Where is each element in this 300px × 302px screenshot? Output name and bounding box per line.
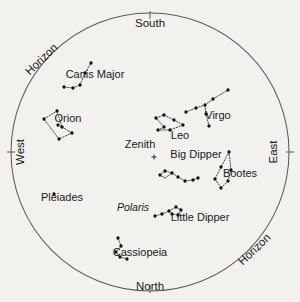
constellation-line-bootes <box>215 167 221 179</box>
star-point-cassiopeia <box>116 236 119 239</box>
constellation-line-leo <box>164 115 174 120</box>
compass-label-south: South <box>135 17 165 29</box>
constellation-label-virgo: Virgo <box>205 109 230 121</box>
star-point-canis-major <box>89 61 92 64</box>
star-point-big-dipper <box>176 175 179 178</box>
constellation-line-bootes <box>221 152 229 167</box>
star-point-leo <box>181 123 184 126</box>
constellation-line-orion <box>62 127 72 133</box>
star-point-little-dipper <box>174 205 177 208</box>
star-point-little-dipper <box>153 214 156 217</box>
star-point-virgo <box>203 103 206 106</box>
constellation-label-little-dipper: Little Dipper <box>171 211 230 223</box>
constellation-label-big-dipper: Big Dipper <box>170 148 222 160</box>
star-point-little-dipper <box>160 212 163 215</box>
star-point-big-dipper <box>158 173 161 176</box>
star-point-leo <box>172 118 175 121</box>
star-point-canis-major <box>78 83 81 86</box>
star-point-big-dipper <box>196 176 199 179</box>
constellation-label-pleiades: Pleiades <box>41 191 84 203</box>
star-point-virgo <box>211 97 214 100</box>
star-point-canis-major <box>62 85 65 88</box>
horizon-label-horizon-upper-left: Horizon <box>23 41 60 77</box>
star-point-virgo <box>226 88 229 91</box>
star-point-bootes <box>227 150 230 153</box>
star-point-bootes <box>219 186 222 189</box>
compass-label-west: West <box>14 138 26 165</box>
constellation-line-orion <box>59 133 72 139</box>
star-point-orion <box>57 137 60 140</box>
constellation-label-leo: Leo <box>171 129 189 141</box>
zenith-label: Zenith <box>125 138 156 150</box>
star-points-group <box>42 61 232 260</box>
star-point-virgo <box>194 106 197 109</box>
star-chart: SouthNorthWestEastHorizonHorizonZenithCa… <box>0 0 300 302</box>
star-point-orion <box>60 125 63 128</box>
star-point-leo <box>154 116 157 119</box>
labels-group: SouthNorthWestEastHorizonHorizonZenithCa… <box>14 17 279 292</box>
constellation-line-leo <box>156 118 164 127</box>
star-label-polaris: Polaris <box>117 201 150 213</box>
star-point-big-dipper <box>191 178 194 181</box>
star-point-big-dipper <box>163 169 166 172</box>
star-point-big-dipper <box>170 171 173 174</box>
star-point-bootes <box>226 179 229 182</box>
constellation-label-bootes: Bootes <box>223 167 258 179</box>
star-point-leo <box>162 125 165 128</box>
star-point-orion <box>70 131 73 134</box>
constellation-lines-group <box>44 63 231 259</box>
zenith-marker-group <box>152 155 157 160</box>
constellation-label-orion: Orion <box>55 112 82 124</box>
star-point-big-dipper <box>183 179 186 182</box>
constellation-label-cassiopeia: Cassiopeia <box>113 246 168 258</box>
star-point-virgo <box>184 110 187 113</box>
star-point-leo <box>156 128 159 131</box>
constellation-line-virgo <box>213 90 228 99</box>
star-point-canis-major <box>71 86 74 89</box>
star-point-virgo <box>207 124 210 127</box>
star-point-leo <box>162 113 165 116</box>
compass-label-east: East <box>267 140 279 164</box>
constellation-label-canis-major: Canis Major <box>66 68 125 80</box>
star-point-bootes <box>213 177 216 180</box>
star-point-orion <box>42 117 45 120</box>
compass-label-north: North <box>136 280 164 292</box>
horizon-label-horizon-lower-right: Horizon <box>236 231 273 267</box>
